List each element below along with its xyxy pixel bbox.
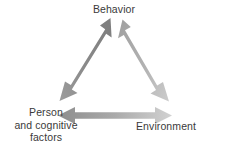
node-label-person-cognitive-factors: Person and cognitive factors: [0, 106, 92, 144]
arrow-behavior-person: [60, 18, 112, 101]
triadic-reciprocal-determinism-diagram: Behavior Person and cognitive factors En…: [0, 0, 228, 149]
node-label-environment: Environment: [136, 120, 228, 133]
node-label-behavior: Behavior: [66, 3, 162, 16]
arrow-behavior-environment: [118, 20, 169, 102]
